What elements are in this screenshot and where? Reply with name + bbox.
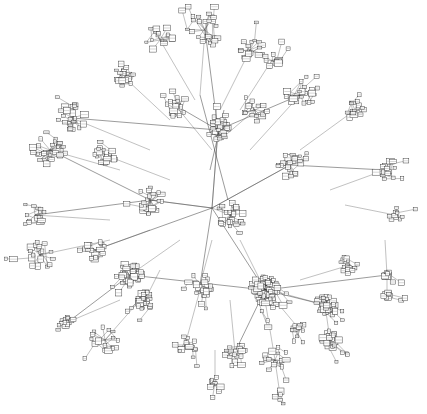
- graph-edge: [345, 205, 395, 215]
- graph-edge: [397, 209, 415, 213]
- graph-edge: [218, 95, 300, 130]
- graph-edge: [160, 40, 195, 100]
- network-graph-canvas: [0, 0, 427, 414]
- graph-edge: [212, 165, 290, 208]
- graph-edge: [72, 118, 218, 130]
- graph-edge: [230, 300, 235, 352]
- graph-edge: [182, 10, 187, 29]
- graph-edge: [265, 275, 387, 290]
- graph-edge: [255, 22, 257, 40]
- graph-edge: [130, 240, 180, 275]
- graph-edge: [213, 22, 214, 38]
- graph-edge: [290, 165, 385, 170]
- graph-nodes: [4, 4, 417, 405]
- graph-edges: [6, 7, 415, 404]
- graph-edge: [175, 105, 212, 150]
- graph-edge: [35, 215, 110, 220]
- graph-edge: [151, 29, 152, 41]
- graph-edge: [385, 240, 387, 275]
- graph-edge: [35, 200, 150, 215]
- graph-edge: [105, 300, 140, 340]
